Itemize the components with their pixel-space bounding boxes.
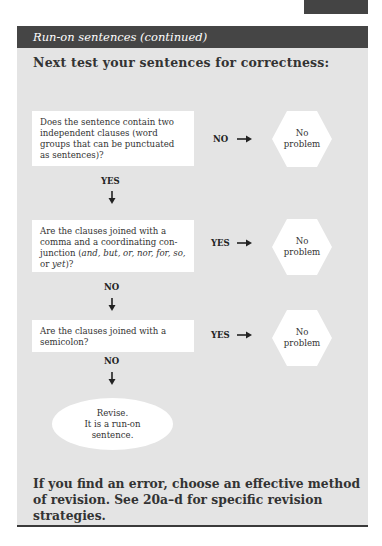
question-text-italic: yet [52, 259, 65, 269]
side-label-3: YES [211, 330, 230, 340]
result-text-line: problem [284, 247, 320, 258]
section-title: Run-on sentences [33, 30, 136, 44]
footer-instruction: If you find an error, choose an effectiv… [33, 476, 363, 524]
content-panel [17, 26, 368, 525]
section-title-suffix: (continued) [140, 30, 207, 44]
question-box-2: Are the clauses joined with a comma and … [32, 220, 194, 272]
question-box-3: Are the clauses joined with a semicolon? [32, 320, 194, 352]
down-label-2: NO [104, 282, 119, 292]
result-text-line: No [284, 327, 320, 338]
section-header: Run-on sentences (continued) [17, 26, 368, 48]
result-text-line: problem [284, 139, 320, 150]
result-text-line: problem [284, 338, 320, 349]
question-box-1: Does the sentence contain two independen… [32, 111, 194, 166]
down-label-1: YES [101, 176, 120, 186]
final-text-line: sentence. [92, 430, 134, 441]
arrow-down-icon [108, 372, 116, 385]
question-text: )? [65, 259, 73, 269]
page-heading: Next test your sentences for correctness… [33, 55, 329, 70]
bottom-rule [17, 525, 368, 527]
arrow-right-icon [237, 135, 252, 143]
question-text: or [40, 259, 52, 269]
arrow-down-icon [108, 191, 116, 204]
down-label-3: NO [104, 356, 119, 366]
result-text-line: No [284, 128, 320, 139]
result-text-line: No [284, 236, 320, 247]
arrow-down-icon [108, 298, 116, 311]
side-label-1: NO [213, 134, 228, 144]
side-label-2: YES [211, 238, 230, 248]
page-corner-tab [304, 0, 368, 14]
arrow-right-icon [237, 331, 252, 339]
final-result-ellipse: Revise. It is a run-on sentence. [52, 398, 173, 450]
final-text-line: It is a run-on [84, 419, 140, 430]
arrow-right-icon [237, 239, 252, 247]
final-text-line: Revise. [97, 408, 128, 419]
question-text-italic: and, but, or, nor, for, so, [82, 248, 186, 258]
